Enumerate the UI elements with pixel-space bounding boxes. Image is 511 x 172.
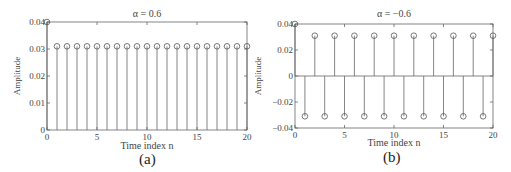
y-tick-label: 0.02: [29, 71, 45, 81]
chart-title-b: α = −0.6: [377, 8, 411, 19]
y-tick-label: −0.04: [272, 123, 293, 133]
y-tick-label: −0.02: [272, 97, 293, 107]
x-tick-label: 15: [439, 130, 449, 140]
x-tick-label: 0: [45, 132, 50, 142]
x-axis-label-a: Time index n: [121, 140, 174, 151]
x-tick-label: 5: [342, 130, 347, 140]
chart-title-a: α = 0.6: [133, 8, 161, 19]
y-axis-ticks-a: 00.010.020.030.04: [29, 17, 247, 135]
y-tick-label: 0.01: [29, 98, 45, 108]
stem-series-b: [292, 21, 496, 119]
x-axis-label-b: Time index n: [368, 137, 421, 148]
x-tick-label: 20: [489, 130, 499, 140]
x-axis-ticks-b: 05101520: [293, 24, 498, 140]
y-axis-label-b: Amplitude: [255, 57, 263, 96]
chart-panel-a: α = 0.6 00.010.020.030.04 05101520 Ampli…: [0, 0, 260, 172]
x-tick-label: 5: [95, 132, 100, 142]
y-tick-label: 0.02: [277, 45, 293, 55]
stem-series-a: [44, 19, 250, 130]
y-tick-label: 0.04: [29, 17, 45, 27]
x-tick-label: 0: [293, 130, 298, 140]
y-axis-label-a: Amplitude: [12, 57, 22, 96]
chart-panel-b: α = −0.6 −0.04−0.0200.020.04 05101520 Am…: [255, 0, 511, 172]
y-tick-label: 0.04: [277, 19, 293, 29]
caption-b: (b): [383, 149, 401, 166]
x-tick-label: 15: [193, 132, 203, 142]
y-tick-label: 0: [289, 71, 294, 81]
y-tick-label: 0.03: [29, 44, 45, 54]
x-axis-ticks-a: 05101520: [45, 22, 252, 142]
caption-a: (a): [139, 151, 156, 168]
x-tick-label: 20: [243, 132, 253, 142]
